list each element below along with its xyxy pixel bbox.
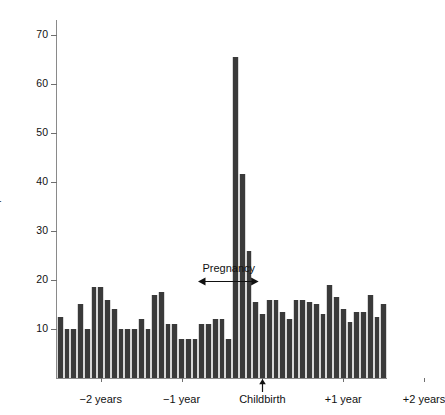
bar [111, 309, 118, 378]
x-axis-tick [182, 378, 183, 382]
bar [360, 312, 367, 378]
bar [131, 329, 138, 378]
bar [97, 287, 104, 378]
x-axis-tick-label: −2 years [80, 392, 123, 406]
bar [367, 295, 374, 378]
bar [374, 317, 381, 378]
y-axis-tick-label: 10 [36, 322, 48, 335]
x-axis-tick-label: Childbirth [239, 392, 285, 406]
bar [347, 322, 354, 378]
x-axis-tick-label: −1 year [163, 392, 200, 406]
bar [158, 292, 165, 378]
y-axis-tick-label: 20 [36, 273, 48, 286]
bar [293, 300, 300, 378]
bar [333, 297, 340, 378]
childbirth-arrow-icon [258, 379, 267, 392]
bar [286, 319, 293, 378]
y-axis-tick-label: 70 [36, 28, 48, 41]
bar [185, 339, 192, 378]
bar [299, 300, 306, 378]
bar [306, 302, 313, 378]
bar [145, 329, 152, 378]
bar [151, 295, 158, 378]
bar [212, 319, 219, 378]
bar [91, 287, 98, 378]
bar [273, 300, 280, 378]
bar [64, 329, 71, 378]
y-axis-tick-label: 30 [36, 224, 48, 237]
bar [178, 339, 185, 378]
bar [259, 314, 266, 378]
bar [252, 302, 259, 378]
y-axis-tick-label: 50 [36, 126, 48, 139]
pregnancy-annotation: Pregnancy [198, 261, 259, 291]
bar [70, 329, 77, 378]
bar [118, 329, 125, 378]
bar [84, 329, 91, 378]
bar [266, 300, 273, 378]
x-axis-tick [424, 378, 425, 382]
bar [104, 300, 111, 378]
bar [192, 339, 199, 378]
y-axis-label: Admissions per month [22, 0, 44, 415]
bar [320, 314, 327, 378]
x-axis-ticks [57, 378, 387, 384]
x-axis-tick-label: +1 year [325, 392, 362, 406]
bar [138, 319, 145, 378]
y-axis-label-text: Admissions per month [0, 155, 1, 261]
x-axis-labels: −2 years−1 yearChildbirth+1 year+2 years [0, 392, 403, 410]
bar [57, 317, 64, 378]
bar [198, 324, 205, 378]
x-axis-tick [343, 378, 344, 382]
bar [219, 319, 226, 378]
x-axis-tick-label: +2 years [403, 392, 445, 406]
bar [353, 312, 360, 378]
bar [165, 324, 172, 378]
bar [77, 304, 84, 378]
bar [340, 309, 347, 378]
pregnancy-label: Pregnancy [198, 261, 259, 275]
bar [232, 57, 239, 378]
bar [279, 312, 286, 378]
bar [171, 324, 178, 378]
y-axis-tick-label: 40 [36, 175, 48, 188]
bar [326, 285, 333, 378]
y-axis-tick-label: 60 [36, 77, 48, 90]
bar [380, 304, 387, 378]
bar [124, 329, 131, 378]
plot-area: 10203040506070 [57, 20, 387, 378]
bar [225, 339, 232, 378]
bar-series [57, 20, 387, 378]
pregnancy-span-arrow-icon [198, 276, 259, 287]
x-axis-tick [101, 378, 102, 382]
bar [205, 324, 212, 378]
bar [313, 304, 320, 378]
